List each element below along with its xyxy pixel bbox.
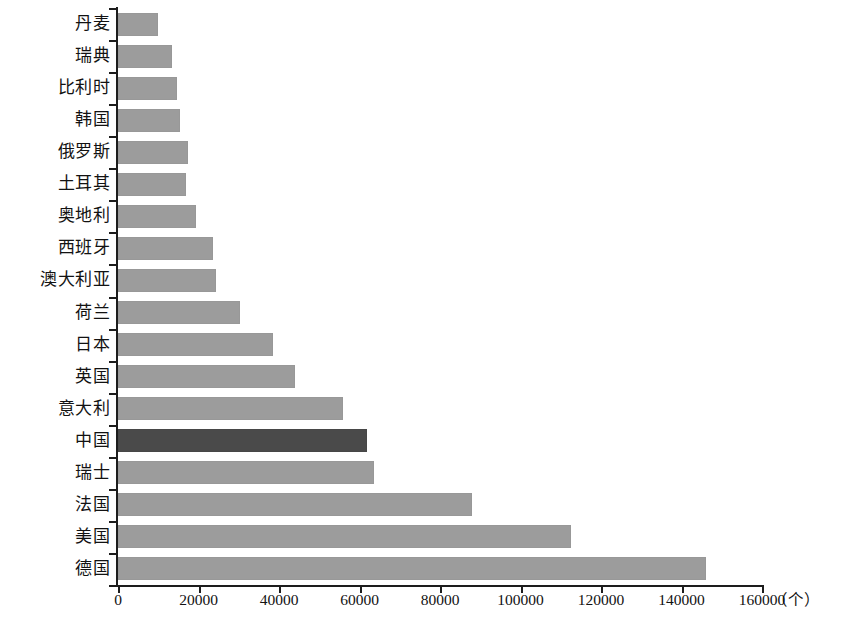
category-label: 意大利 xyxy=(0,400,110,417)
y-axis-tick xyxy=(109,393,117,395)
x-axis-tick-label: 60000 xyxy=(320,592,400,608)
category-label: 日本 xyxy=(0,336,110,353)
y-axis-tick xyxy=(109,489,117,491)
bar xyxy=(118,301,240,324)
x-axis-tick-label: 40000 xyxy=(239,592,319,608)
category-label: 瑞士 xyxy=(0,464,110,481)
bar xyxy=(118,397,343,420)
y-axis-tick xyxy=(109,553,117,555)
y-axis-tick xyxy=(109,168,117,170)
x-axis-tick-label: 120000 xyxy=(561,592,641,608)
x-axis-tick-label: 0 xyxy=(78,592,158,608)
x-axis-tick-label: 100000 xyxy=(481,592,561,608)
bar xyxy=(118,237,213,260)
category-label: 韩国 xyxy=(0,111,110,128)
bar xyxy=(118,269,216,292)
x-axis-tick-label: 20000 xyxy=(159,592,239,608)
y-axis-tick xyxy=(109,136,117,138)
bar-chart: 丹麦瑞典比利时韩国俄罗斯土耳其奥地利西班牙澳大利亚荷兰日本英国意大利中国瑞士法国… xyxy=(0,0,845,621)
category-axis-labels: 丹麦瑞典比利时韩国俄罗斯土耳其奥地利西班牙澳大利亚荷兰日本英国意大利中国瑞士法国… xyxy=(0,8,110,585)
category-label: 荷兰 xyxy=(0,304,110,321)
x-axis-unit-label: （个） xyxy=(772,592,820,608)
y-axis-tick xyxy=(109,329,117,331)
bar xyxy=(118,461,374,484)
category-label: 奥地利 xyxy=(0,207,110,224)
category-label: 比利时 xyxy=(0,79,110,96)
bar xyxy=(118,333,273,356)
y-axis-tick xyxy=(109,72,117,74)
y-axis-tick xyxy=(109,425,117,427)
category-label: 瑞典 xyxy=(0,47,110,64)
category-label: 澳大利亚 xyxy=(0,271,110,288)
category-label: 英国 xyxy=(0,368,110,385)
category-label: 德国 xyxy=(0,560,110,577)
y-axis-tick xyxy=(109,8,117,10)
bar xyxy=(118,365,295,388)
bar xyxy=(118,45,172,68)
bar xyxy=(118,77,177,100)
bar xyxy=(118,141,188,164)
bar xyxy=(118,13,158,36)
category-label: 法国 xyxy=(0,496,110,513)
category-label: 土耳其 xyxy=(0,175,110,192)
y-axis-tick xyxy=(109,200,117,202)
x-axis-tick-label: 80000 xyxy=(400,592,480,608)
category-label: 西班牙 xyxy=(0,239,110,256)
bar xyxy=(118,109,180,132)
category-label: 丹麦 xyxy=(0,15,110,32)
y-axis-tick xyxy=(109,104,117,106)
plot-area xyxy=(118,8,762,585)
y-axis-tick xyxy=(109,457,117,459)
bar xyxy=(118,557,706,580)
y-axis-tick xyxy=(109,40,117,42)
category-label: 美国 xyxy=(0,528,110,545)
y-axis-tick xyxy=(109,521,117,523)
bar xyxy=(118,525,571,548)
category-label: 中国 xyxy=(0,432,110,449)
y-axis-tick xyxy=(109,585,117,587)
bar xyxy=(118,493,472,516)
bar xyxy=(118,205,196,228)
bar xyxy=(118,429,367,452)
y-axis-tick xyxy=(109,361,117,363)
y-axis-tick xyxy=(109,297,117,299)
category-label: 俄罗斯 xyxy=(0,143,110,160)
y-axis-tick xyxy=(109,264,117,266)
x-axis-tick-label: 140000 xyxy=(642,592,722,608)
bar xyxy=(118,173,186,196)
y-axis-tick xyxy=(109,232,117,234)
